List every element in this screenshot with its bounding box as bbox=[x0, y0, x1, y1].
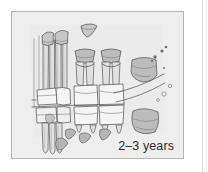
upper-incisor-crowns bbox=[37, 87, 71, 105]
dentition-illustration: .ln { fill:none; stroke:#5a5a5a; stroke-… bbox=[12, 12, 183, 158]
illustration-panel: .ln { fill:none; stroke:#5a5a5a; stroke-… bbox=[11, 11, 184, 159]
age-caption: 2–3 years bbox=[118, 140, 174, 153]
figure-root: .ln { fill:none; stroke:#5a5a5a; stroke-… bbox=[0, 0, 208, 172]
page-edge-rule bbox=[202, 0, 203, 172]
upper-permanent-molar-crypt bbox=[131, 58, 157, 83]
page-edge-rule-secondary bbox=[206, 0, 207, 172]
lower-permanent-molar-crypt bbox=[132, 109, 159, 134]
